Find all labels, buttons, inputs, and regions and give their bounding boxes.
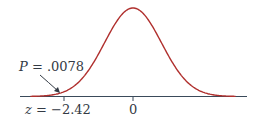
zero-tick-label: 0 bbox=[129, 102, 137, 117]
annotation-arrow bbox=[40, 75, 58, 91]
normal-density-curve bbox=[30, 8, 235, 96]
z-tick-label: z = −2.42 bbox=[24, 102, 91, 117]
normal-curve-chart: P = .0078 z = −2.42 0 bbox=[0, 0, 264, 122]
p-value-label: P = .0078 bbox=[18, 59, 84, 74]
